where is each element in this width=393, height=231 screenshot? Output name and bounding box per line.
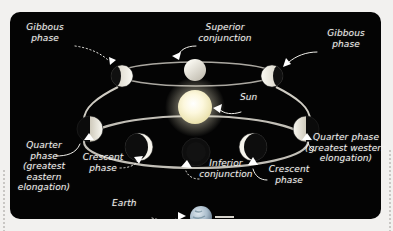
label-earth: Earth	[112, 198, 137, 209]
label-crescent-phase-left: Crescent phase	[72, 152, 134, 173]
leader-superior-conjunction	[178, 46, 196, 56]
page-edge-marker-left	[3, 170, 5, 231]
label-inferior-conjunction: Inferior conjunction	[188, 158, 264, 179]
label-sun: Sun	[240, 92, 257, 103]
phase-superior-conjunction	[184, 59, 206, 81]
label-gibbous-phase-left: Gibbous phase	[14, 22, 76, 43]
arrowhead-earth	[178, 212, 186, 219]
phase-gibbous-left	[109, 65, 133, 87]
phase-gibbous-right	[261, 65, 285, 87]
sun-body	[178, 90, 212, 124]
leader-earth	[152, 218, 180, 219]
label-superior-conjunction: Superior conjunction	[185, 22, 265, 43]
arrowhead-superior-conjunction	[172, 52, 181, 60]
leader-gibbous-right	[289, 52, 317, 62]
label-quarter-phase-eastern: Quarter phase (greatest eastern elongati…	[8, 140, 80, 193]
phase-crescent-right	[239, 133, 270, 161]
label-quarter-phase-western: Quarter phase (greatest western elongati…	[302, 132, 390, 164]
arrowhead-gibbous-right	[283, 58, 291, 67]
label-crescent-phase-right: Crescent phase	[258, 164, 320, 185]
diagram-stage: Gibbous phase Superior conjunction Gibbo…	[0, 0, 393, 231]
leader-gibbous-left	[75, 46, 109, 61]
arrowhead-gibbous-left	[109, 57, 116, 65]
label-gibbous-phase-right: Gibbous phase	[315, 28, 377, 49]
orbit-connector-right	[276, 87, 310, 120]
orbit-connector-left	[84, 87, 118, 120]
